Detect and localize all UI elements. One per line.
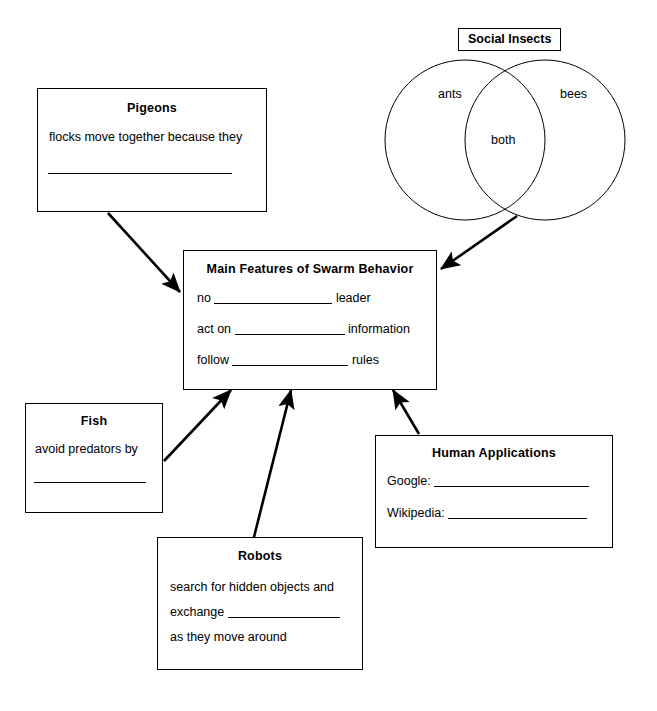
main-feature-line-1: no leader: [197, 291, 371, 305]
google-label: Google:: [387, 474, 431, 488]
human-applications-line-2: Wikipedia:: [387, 506, 587, 520]
arrow-pigeons-to-main: [108, 213, 180, 292]
swarm-behavior-worksheet: Pigeons flocks move together because the…: [0, 0, 657, 711]
main-feature-2-suffix: information: [348, 322, 410, 336]
fish-title: Fish: [26, 414, 162, 428]
human-applications-title: Human Applications: [376, 446, 612, 460]
pigeons-title: Pigeons: [38, 101, 266, 115]
pigeons-box: Pigeons flocks move together because the…: [37, 88, 267, 212]
arrow-social-insects-to-main: [441, 216, 517, 269]
robots-line-2-prefix: exchange: [170, 605, 224, 619]
social-insects-venn: Social Insects ants bees both: [383, 28, 629, 223]
arrow-human-applications-to-main: [393, 390, 419, 434]
venn-overlap-label: both: [491, 133, 515, 147]
main-feature-3-suffix: rules: [352, 353, 379, 367]
fish-box: Fish avoid predators by: [25, 403, 163, 513]
wikipedia-label: Wikipedia:: [387, 506, 445, 520]
main-feature-line-2: act on information: [197, 322, 410, 336]
main-feature-2-blank[interactable]: [235, 323, 345, 335]
main-feature-1-suffix: leader: [336, 291, 371, 305]
social-insects-label: Social Insects: [458, 28, 561, 51]
main-feature-3-blank[interactable]: [232, 354, 348, 366]
pigeons-line-1: flocks move together because they: [49, 130, 242, 144]
venn-right-label: bees: [560, 87, 587, 101]
main-feature-1-prefix: no: [197, 291, 211, 305]
robots-line-3: as they move around: [170, 630, 287, 644]
main-feature-2-prefix: act on: [197, 322, 231, 336]
main-feature-1-blank[interactable]: [214, 292, 332, 304]
venn-circles: ants bees both: [383, 28, 629, 223]
robots-answer-blank[interactable]: [228, 606, 340, 618]
wikipedia-answer-blank[interactable]: [448, 507, 587, 519]
arrow-robots-to-main: [254, 390, 291, 537]
human-applications-line-1: Google:: [387, 474, 589, 488]
robots-line-1: search for hidden objects and: [170, 580, 334, 594]
fish-answer-blank[interactable]: [34, 482, 146, 483]
main-feature-3-prefix: follow: [197, 353, 229, 367]
robots-box: Robots search for hidden objects and exc…: [157, 537, 363, 670]
main-features-title: Main Features of Swarm Behavior: [184, 262, 436, 276]
robots-line-2: exchange: [170, 605, 340, 619]
main-feature-line-3: follow rules: [197, 353, 379, 367]
google-answer-blank[interactable]: [434, 475, 589, 487]
main-features-box: Main Features of Swarm Behavior no leade…: [183, 250, 437, 390]
venn-left-label: ants: [438, 87, 462, 101]
human-applications-box: Human Applications Google: Wikipedia:: [375, 435, 613, 548]
pigeons-answer-blank[interactable]: [48, 173, 232, 174]
arrow-fish-to-main: [164, 390, 231, 461]
robots-title: Robots: [158, 549, 362, 563]
fish-line-1: avoid predators by: [35, 442, 138, 456]
